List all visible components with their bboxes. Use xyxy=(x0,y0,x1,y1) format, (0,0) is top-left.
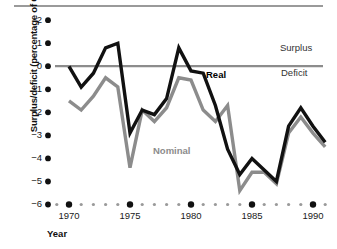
y-tick-label: −4 xyxy=(22,152,42,163)
annotation-deficit: Deficit xyxy=(281,67,307,78)
x-tick-label: 1990 xyxy=(293,210,333,221)
x-tick-label: 1975 xyxy=(110,210,150,221)
y-tick-label: 2 xyxy=(22,14,42,25)
annotation-series-real: Real xyxy=(206,69,226,80)
y-tick-label: −1 xyxy=(22,83,42,94)
y-tick-label: −3 xyxy=(22,129,42,140)
x-axis-tick-dots xyxy=(55,201,327,207)
y-axis-tick-dots xyxy=(45,17,51,207)
annotation-series-nominal: Nominal xyxy=(153,145,190,156)
series-line-real xyxy=(69,43,325,181)
x-axis-title: Year xyxy=(47,228,67,239)
y-tick-label: 1 xyxy=(22,37,42,48)
annotation-surplus: Surplus xyxy=(280,42,312,53)
y-tick-label: −6 xyxy=(22,198,42,209)
x-tick-label: 1985 xyxy=(232,210,272,221)
y-tick-label: −2 xyxy=(22,106,42,117)
y-tick-label: −5 xyxy=(22,175,42,186)
x-tick-label: 1980 xyxy=(171,210,211,221)
y-tick-label: 0 xyxy=(22,60,42,71)
chart-figure: Surplus/deficit (percentage of GDP) xyxy=(0,0,337,249)
x-tick-label: 1970 xyxy=(49,210,89,221)
